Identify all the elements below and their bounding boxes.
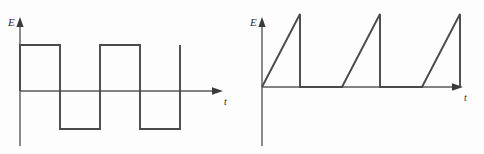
sawtooth-wave-svg: E t [242,0,484,154]
x-axis-label: t [464,92,467,103]
x-axis-arrowhead [212,87,223,95]
y-axis-label: E [249,16,257,28]
x-axis-arrowhead [452,83,463,91]
y-axis-arrowhead [16,17,23,27]
y-axis-arrowhead [258,17,265,27]
square-wave-svg: E t [0,0,242,154]
waveform-figure: E t E t [0,0,484,154]
y-axis-label: E [7,16,15,28]
square-wave-chart: E t [0,0,242,154]
x-axis-label: t [224,96,227,107]
square-wave-trace [20,45,180,129]
sawtooth-wave-trace [262,14,460,87]
sawtooth-wave-chart: E t [242,0,484,154]
